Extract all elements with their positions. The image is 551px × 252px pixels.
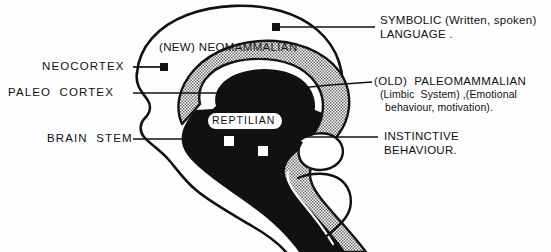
label-paleomammalian-line2: (Limbic System) ,(Emotional (380, 89, 517, 100)
label-symbolic-line1: SYMBOLIC (Written, spoken) (380, 14, 536, 26)
symbolic-marker (272, 23, 280, 31)
paleomammalian-marker (274, 86, 282, 94)
label-instinctive-line1: INSTINCTIVE (384, 130, 459, 142)
cerebellum-loop (299, 133, 343, 170)
label-neocortex: NEOCORTEX (42, 60, 125, 72)
reptilian-marker-2 (258, 146, 268, 156)
brain-illustration (0, 0, 551, 252)
reptilian-marker-1 (224, 136, 234, 146)
label-brain-stem: BRAIN STEM (47, 132, 133, 144)
triune-brain-figure: NEOCORTEX PALEO CORTEX BRAIN STEM (NEW) … (0, 0, 551, 252)
label-paleo-cortex: PALEO CORTEX (8, 86, 114, 98)
label-paleomammalian-line3: behaviour, motivation). (385, 102, 493, 113)
label-neomammalian: (NEW) NEOMAMMALIAN (159, 41, 298, 53)
label-instinctive-line2: BEHAVIOUR. (384, 144, 457, 156)
label-paleomammalian-line1: (OLD) PALEOMAMMALIAN (374, 75, 526, 87)
label-reptilian: REPTILIAN (212, 115, 275, 126)
label-symbolic-line2: LANGUAGE . (380, 28, 453, 40)
neocortex-marker (160, 63, 168, 71)
